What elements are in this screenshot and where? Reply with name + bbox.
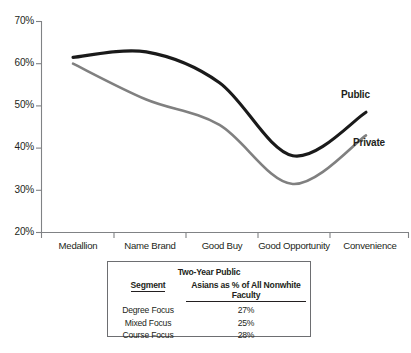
y-tick-label-3: 40% [0, 141, 34, 152]
table-grid: Segment Asians as % of All Nonwhite Facu… [108, 280, 310, 340]
table-header-value: Asians as % of All Nonwhite Faculty [186, 280, 306, 303]
table-row-2-value: 28% [186, 328, 306, 341]
series-line-public [73, 51, 366, 156]
y-tick-label-0: 70% [0, 15, 34, 26]
table-header-value-text: Asians as % of All Nonwhite Faculty [186, 280, 306, 302]
table-row-0-value: 27% [186, 303, 306, 316]
table-header-segment: Segment [110, 280, 186, 303]
summary-table: Two-Year Public Segment Asians as % of A… [107, 261, 311, 337]
table-row-1-value: 25% [186, 315, 306, 328]
x-tick-label-medallion: Medallion [42, 240, 114, 251]
x-tick-label-convenience: Convenience [332, 240, 408, 251]
table-row-2-segment: Course Focus [110, 328, 186, 341]
y-tick-label-5: 20% [0, 226, 34, 237]
y-tick-label-1: 60% [0, 57, 34, 68]
x-tick-label-good-buy: Good Buy [186, 240, 258, 251]
y-tick-label-2: 50% [0, 99, 34, 110]
y-tick-label-4: 30% [0, 184, 34, 195]
series-label-public: Public [341, 89, 370, 100]
table-title: Two-Year Public [108, 267, 310, 277]
x-tick-label-good-opportunity: Good Opportunity [254, 240, 334, 251]
x-axis-ticks [42, 233, 409, 239]
y-axis-ticks [36, 22, 41, 233]
table-row-1-segment: Mixed Focus [110, 315, 186, 328]
chart-figure: 70% 60% 50% 40% 30% 20% Medallion Name B… [0, 0, 411, 353]
series-label-private: Private [353, 137, 385, 148]
table-header-segment-text: Segment [131, 280, 166, 292]
table-row-0-segment: Degree Focus [110, 303, 186, 316]
x-tick-label-name-brand: Name Brand [114, 240, 186, 251]
